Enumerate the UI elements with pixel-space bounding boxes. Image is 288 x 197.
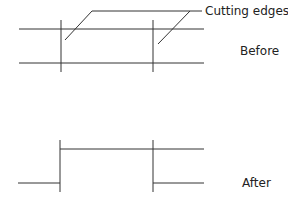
cutting-edges-diagram: Cutting edges Before After	[0, 0, 288, 197]
before-label: Before	[240, 44, 279, 58]
callout-leader	[65, 11, 190, 44]
diagram-lines	[0, 0, 288, 197]
after-label: After	[242, 176, 271, 190]
cutting-edges-label: Cutting edges	[205, 4, 288, 18]
